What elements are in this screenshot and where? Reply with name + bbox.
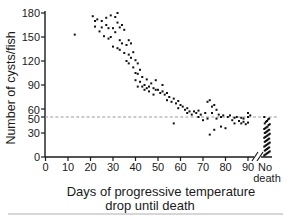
- y-tick-label: 60: [28, 104, 40, 116]
- y-tick-label: 0: [34, 151, 40, 163]
- x-tick-label: 0: [42, 161, 48, 173]
- no-death-point: [264, 150, 266, 152]
- data-point: [112, 27, 114, 29]
- data-point: [247, 122, 249, 124]
- data-point: [155, 79, 157, 81]
- data-point: [146, 78, 148, 80]
- data-point: [105, 17, 107, 19]
- data-point: [74, 34, 76, 36]
- data-point: [123, 29, 125, 31]
- no-death-point: [263, 116, 265, 118]
- data-point: [229, 114, 231, 116]
- data-point: [108, 27, 110, 29]
- y-tick-label: 150: [22, 31, 40, 43]
- data-point: [94, 26, 96, 28]
- y-tick-label: 30: [28, 127, 40, 139]
- data-point: [117, 12, 119, 14]
- data-point: [207, 118, 209, 120]
- data-point: [182, 106, 184, 108]
- data-point: [148, 86, 150, 88]
- data-point: [164, 94, 166, 96]
- data-point: [247, 112, 249, 114]
- no-death-point: [263, 137, 265, 139]
- data-point: [243, 121, 245, 123]
- data-point: [200, 114, 202, 116]
- data-point: [146, 87, 148, 89]
- y-tick-label: 120: [22, 55, 40, 67]
- data-point: [137, 73, 139, 75]
- data-point: [211, 112, 213, 114]
- data-point: [168, 96, 170, 98]
- data-point: [105, 24, 107, 26]
- data-point: [240, 122, 242, 124]
- data-point: [101, 20, 103, 22]
- data-point: [211, 106, 213, 108]
- data-point: [220, 116, 222, 118]
- x-tick-label: 40: [129, 161, 141, 173]
- data-point: [137, 86, 139, 88]
- data-point: [155, 89, 157, 91]
- data-point: [249, 114, 251, 116]
- data-point: [243, 118, 245, 120]
- data-point: [218, 114, 220, 116]
- y-tick-label: 180: [22, 7, 40, 19]
- data-point: [119, 26, 121, 28]
- x-tick-label: 20: [84, 161, 96, 173]
- data-point: [114, 31, 116, 33]
- data-point: [238, 120, 240, 122]
- data-point: [234, 117, 236, 119]
- data-point: [132, 66, 134, 68]
- data-point: [141, 86, 143, 88]
- data-point: [135, 79, 137, 81]
- data-point: [191, 114, 193, 116]
- no-death-cluster: [263, 116, 271, 156]
- data-point: [204, 112, 206, 114]
- data-point: [144, 89, 146, 91]
- data-point: [195, 112, 197, 114]
- data-point: [114, 16, 116, 18]
- scatter-chart: 030506090120150180 0102030405060708090 N…: [0, 0, 290, 218]
- x-axis-title-line2: drop until death: [105, 198, 195, 213]
- data-point: [121, 24, 123, 26]
- no-death-label-line2: death: [253, 172, 281, 184]
- data-point: [222, 114, 224, 116]
- data-point: [234, 122, 236, 124]
- data-point: [144, 84, 146, 86]
- data-point: [110, 36, 112, 38]
- data-point: [202, 119, 204, 121]
- data-point: [173, 98, 175, 100]
- data-point: [130, 42, 132, 44]
- x-tick-label: 50: [152, 161, 164, 173]
- data-point: [150, 82, 152, 84]
- no-death-point: [263, 146, 265, 148]
- data-point: [130, 57, 132, 59]
- data-point: [94, 20, 96, 22]
- data-point: [189, 110, 191, 112]
- data-point: [220, 126, 222, 128]
- data-point: [175, 102, 177, 104]
- data-point: [216, 109, 218, 111]
- data-point: [186, 112, 188, 114]
- data-point: [117, 47, 119, 49]
- no-death-point: [263, 154, 265, 156]
- y-axis-ticks: 030506090120150180: [22, 7, 45, 163]
- data-point: [126, 44, 128, 46]
- data-point: [153, 87, 155, 89]
- data-point: [216, 118, 218, 120]
- data-point: [193, 110, 195, 112]
- no-death-point: [264, 122, 266, 124]
- data-point: [139, 69, 141, 71]
- figure: 030506090120150180 0102030405060708090 N…: [0, 0, 290, 218]
- no-death-point: [264, 141, 266, 143]
- x-axis-title-line1: Days of progressive temperature: [67, 184, 256, 199]
- data-point: [157, 89, 159, 91]
- data-point: [128, 54, 130, 56]
- data-point: [135, 72, 137, 74]
- data-point: [159, 92, 161, 94]
- data-point: [180, 104, 182, 106]
- data-point: [99, 30, 101, 32]
- data-point: [173, 122, 175, 124]
- data-point: [209, 99, 211, 101]
- data-point: [177, 107, 179, 109]
- data-point: [132, 51, 134, 53]
